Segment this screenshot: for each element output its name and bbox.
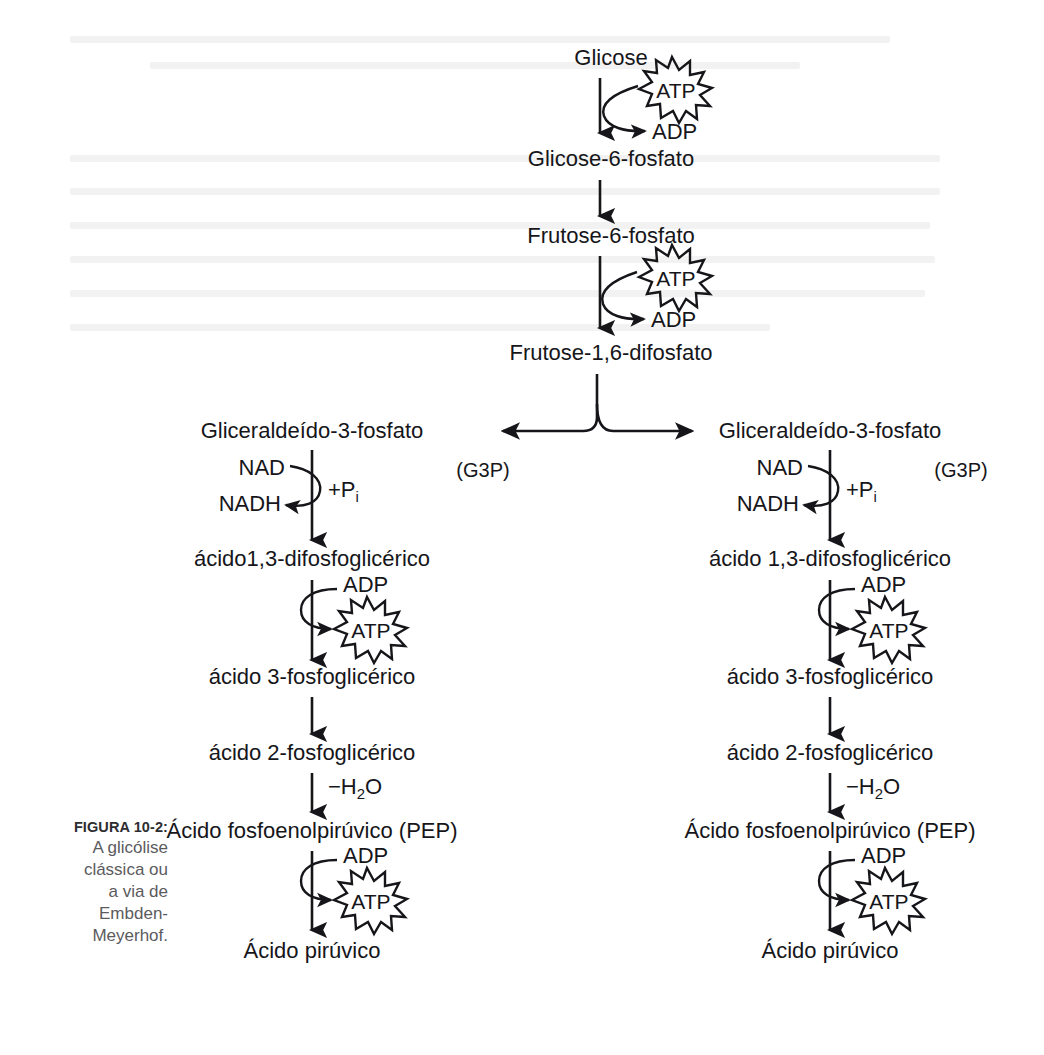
redox-loop-left: NAD NADH +Pi — [219, 455, 359, 516]
label-dehydration-left: −H2O — [328, 774, 382, 802]
node-pep-right: Ácido fosfoenolpirúvico (PEP) — [684, 818, 975, 843]
node-2pg-left: ácido 2-fosfoglicérico — [209, 740, 416, 765]
node-frutose-1-6-difosfato: Frutose-1,6-difosfato — [510, 340, 713, 365]
figure-caption-line: clássica ou — [10, 859, 168, 881]
atp-starburst-icon: ATP — [639, 57, 712, 123]
phosphorylation-loop-right-1: ADP ATP — [819, 572, 925, 663]
figure-caption-line: A glicólise — [10, 837, 168, 859]
atp-starburst-icon: ATP — [852, 868, 925, 934]
label-dehydration-right: −H2O — [846, 774, 900, 802]
label-atp-right-1: ATP — [869, 619, 908, 642]
figure-caption-label: FIGURA 10-2: — [10, 818, 168, 837]
figure-caption-line: Embden- — [10, 903, 168, 925]
atp-starburst-icon: ATP — [639, 245, 712, 311]
label-adp-left-1: ADP — [343, 572, 388, 597]
node-glicose-6-fosfato: Glicose-6-fosfato — [528, 146, 694, 171]
label-adp-right-1: ADP — [861, 572, 906, 597]
aside-g3p-right: (G3P) — [934, 459, 987, 481]
curve-nad-to-nadh-left — [286, 466, 320, 506]
node-g3p-left: Gliceraldeído-3-fosfato — [201, 418, 424, 443]
node-3pg-left: ácido 3-fosfoglicérico — [209, 664, 416, 689]
label-pi-left: +Pi — [328, 477, 359, 505]
node-pyruvate-left: Ácido pirúvico — [244, 938, 381, 963]
label-adp-left-2: ADP — [343, 843, 388, 868]
cofactor-loop-hexokinase: ATP ADP — [603, 57, 712, 144]
label-nadh-left: NADH — [219, 491, 281, 516]
curve-adp-to-atp-left-2 — [301, 860, 337, 900]
label-adp-1: ADP — [652, 119, 697, 144]
cofactor-loop-pfk: ATP ADP — [602, 245, 712, 332]
node-pyruvate-right: Ácido pirúvico — [762, 938, 899, 963]
label-atp-right-2: ATP — [869, 890, 908, 913]
node-bpg-right: ácido 1,3-difosfoglicérico — [709, 546, 951, 571]
figure-caption-line: a via de — [10, 881, 168, 903]
glycolysis-figure: Glicose ATP ADP Glicose-6-fosfato Frutos… — [0, 0, 1044, 1055]
label-atp-left-1: ATP — [351, 619, 390, 642]
trunk-section: Glicose ATP ADP Glicose-6-fosfato Frutos… — [510, 45, 713, 365]
node-g3p-right: Gliceraldeído-3-fosfato — [719, 418, 942, 443]
node-glicose: Glicose — [574, 45, 647, 70]
redox-loop-right: NAD NADH +Pi — [737, 455, 877, 516]
label-atp-1: ATP — [656, 79, 695, 102]
label-nad-right: NAD — [757, 455, 803, 480]
curve-atp-to-adp — [603, 86, 645, 131]
label-atp-2: ATP — [656, 267, 695, 290]
curve-nad-to-nadh-right — [804, 466, 838, 506]
figure-caption-line: Meyerhof. — [10, 925, 168, 947]
branch-fork — [503, 374, 692, 431]
fork-arrow-left — [503, 374, 597, 431]
label-nadh-right: NADH — [737, 491, 799, 516]
fork-arrow-right — [597, 404, 692, 431]
phosphorylation-loop-left-1: ADP ATP — [301, 572, 407, 663]
phosphorylation-loop-right-2: ADP ATP — [819, 843, 925, 934]
label-pi-right: +Pi — [846, 477, 877, 505]
node-3pg-right: ácido 3-fosfoglicérico — [727, 664, 934, 689]
label-nad-left: NAD — [239, 455, 285, 480]
node-bpg-left: ácido1,3-difosfoglicérico — [194, 546, 430, 571]
node-frutose-6-fosfato: Frutose-6-fosfato — [527, 223, 695, 248]
left-branch-section: Gliceraldeído-3-fosfato (G3P) NAD NADH +… — [166, 418, 509, 963]
curve-atp-to-adp-2 — [602, 272, 644, 319]
right-branch-section: Gliceraldeído-3-fosfato (G3P) NAD NADH +… — [684, 418, 987, 963]
atp-starburst-icon: ATP — [852, 597, 925, 663]
curve-adp-to-atp-right-1 — [819, 589, 855, 629]
phosphorylation-loop-left-2: ADP ATP — [301, 843, 407, 934]
label-adp-2: ADP — [651, 307, 696, 332]
node-pep-left: Ácido fosfoenolpirúvico (PEP) — [166, 818, 457, 843]
label-adp-right-2: ADP — [861, 843, 906, 868]
curve-adp-to-atp-right-2 — [819, 860, 855, 900]
atp-starburst-icon: ATP — [334, 868, 407, 934]
curve-adp-to-atp-left-1 — [301, 589, 337, 629]
aside-g3p-left: (G3P) — [456, 459, 509, 481]
atp-starburst-icon: ATP — [334, 597, 407, 663]
node-2pg-right: ácido 2-fosfoglicérico — [727, 740, 934, 765]
figure-caption: FIGURA 10-2: A glicólise clássica ou a v… — [10, 818, 168, 947]
label-atp-left-2: ATP — [351, 890, 390, 913]
